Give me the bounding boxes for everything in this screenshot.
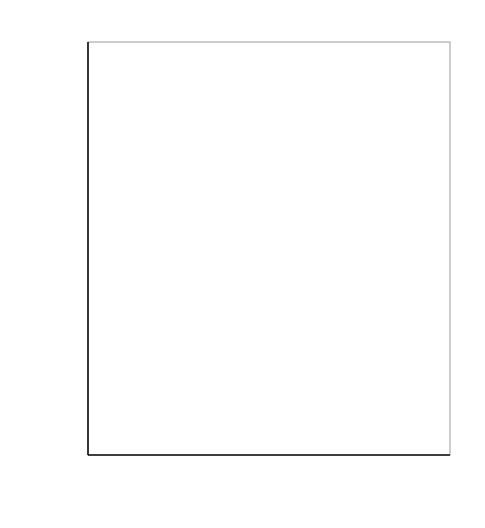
plot-frame-rect	[88, 42, 450, 455]
histogram-plot	[0, 0, 485, 528]
figure-root	[0, 0, 485, 528]
plot-frame	[88, 42, 450, 455]
